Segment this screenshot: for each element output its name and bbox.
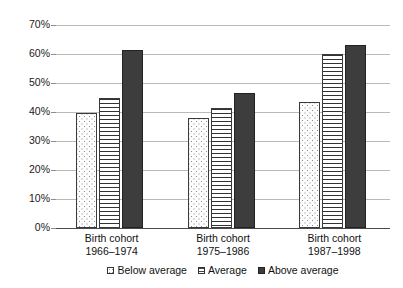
y-axis-tick-label: 0% — [14, 222, 50, 233]
x-axis-line — [56, 228, 390, 229]
bar-group-container — [56, 25, 390, 228]
x-axis-category-label: Birth cohort1975–1986 — [167, 232, 278, 258]
bar-chart: 0%10%20%30%40%50%60%70% Birth cohort1966… — [0, 0, 403, 288]
x-axis-category-label: Birth cohort1966–1974 — [56, 232, 167, 258]
y-axis-tick-label: 20% — [14, 164, 50, 175]
x-axis-category-label-line2: 1987–1998 — [279, 245, 390, 258]
x-axis-category-label-line1: Birth cohort — [196, 232, 250, 244]
bar-above-average — [234, 93, 255, 228]
legend-item-average: Average — [198, 264, 247, 276]
x-axis-category-label-line2: 1966–1974 — [56, 245, 167, 258]
bar-average — [322, 54, 343, 228]
bar-below-average — [188, 118, 209, 228]
bar-average — [211, 108, 232, 228]
y-axis-tick-label: 30% — [14, 135, 50, 146]
x-axis-category-label-line1: Birth cohort — [85, 232, 139, 244]
legend-swatch-icon — [198, 267, 205, 274]
legend-item-below-average: Below average — [107, 264, 186, 276]
y-axis-tick-label: 50% — [14, 77, 50, 88]
legend-label: Below average — [117, 264, 186, 276]
bar-above-average — [345, 45, 366, 228]
y-axis-tick-label: 40% — [14, 106, 50, 117]
legend-label: Average — [208, 264, 247, 276]
y-axis-tick-label: 60% — [14, 48, 50, 59]
legend-swatch-icon — [107, 267, 114, 274]
legend-swatch-icon — [258, 267, 265, 274]
bar-below-average — [76, 113, 97, 228]
bar-below-average — [299, 102, 320, 228]
bar-above-average — [122, 50, 143, 228]
x-axis-category-label-line2: 1975–1986 — [167, 245, 278, 258]
x-axis-category-label: Birth cohort1987–1998 — [279, 232, 390, 258]
bar-average — [99, 98, 120, 229]
x-axis-category-label-line1: Birth cohort — [307, 232, 361, 244]
x-axis-labels: Birth cohort1966–1974Birth cohort1975–19… — [56, 232, 390, 268]
legend-label: Above average — [268, 264, 339, 276]
y-axis-tick-label: 70% — [14, 19, 50, 30]
legend-item-above-average: Above average — [258, 264, 339, 276]
chart-legend: Below averageAverageAbove average — [56, 264, 390, 276]
y-axis-tick-label: 10% — [14, 193, 50, 204]
